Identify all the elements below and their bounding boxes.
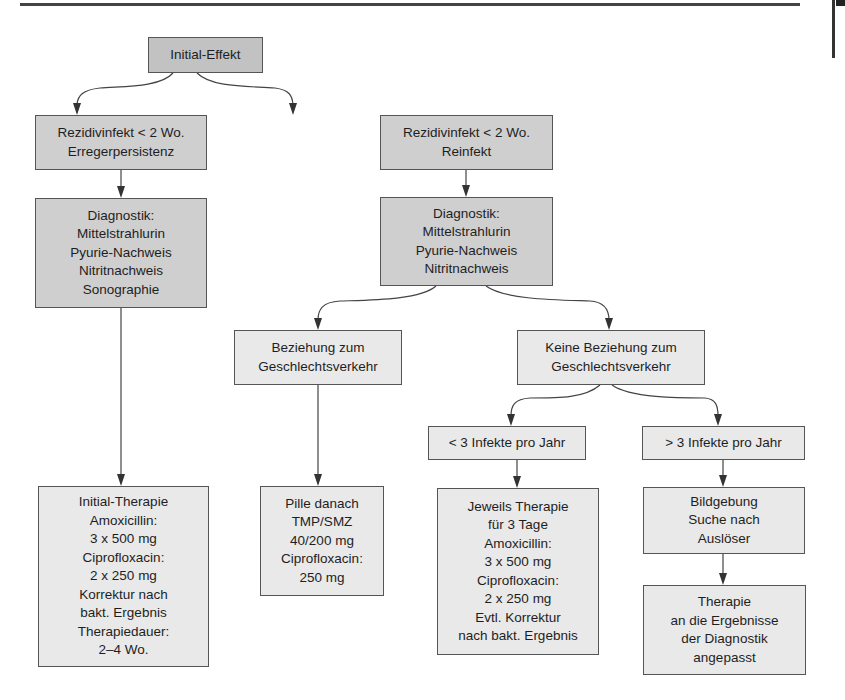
node-reinfekt: Rezidivinfekt < 2 Wo. Reinfekt xyxy=(380,115,553,170)
arrowhead-icon xyxy=(314,474,322,486)
edge-initial-to-erregerpersistenz xyxy=(77,73,173,104)
node-mehr-3-infekte: > 3 Infekte pro Jahr xyxy=(642,426,805,460)
node-beziehung: Beziehung zum Geschlechtsverkehr xyxy=(234,330,402,385)
node-jeweils-therapie: Jeweils Therapie für 3 Tage Amoxicillin:… xyxy=(437,488,599,655)
node-therapie-angepasst: Therapie an die Ergebnisse der Diagnosti… xyxy=(643,585,806,675)
edge-initial-to-reinfekt xyxy=(197,73,293,104)
arrowhead-icon xyxy=(289,103,297,115)
arrowhead-icon xyxy=(507,414,515,426)
arrowhead-icon xyxy=(73,103,81,115)
node-bildgebung: Bildgebung Suche nach Auslöser xyxy=(643,487,805,554)
arrowhead-icon xyxy=(605,318,613,330)
arrowhead-icon xyxy=(719,573,727,585)
arrowhead-icon xyxy=(462,185,470,197)
arrowhead-icon xyxy=(513,476,521,488)
node-weniger-3-infekte: < 3 Infekte pro Jahr xyxy=(428,426,586,460)
node-diagnostik-right: Diagnostik: Mittelstrahlurin Pyurie-Nach… xyxy=(380,197,553,286)
node-initial-effekt: Initial-Effekt xyxy=(148,37,263,73)
arrowhead-icon xyxy=(314,318,322,330)
node-diagnostik-left: Diagnostik: Mittelstrahlurin Pyurie-Nach… xyxy=(35,198,207,308)
node-erregerpersistenz: Rezidivinfekt < 2 Wo. Erregerpersistenz xyxy=(35,115,207,170)
node-pille-danach: Pille danach TMP/SMZ 40/200 mg Ciproflox… xyxy=(260,486,384,596)
node-initial-therapie: Initial-Therapie Amoxicillin: 3 x 500 mg… xyxy=(38,486,209,667)
arrowhead-icon xyxy=(714,414,722,426)
arrowhead-icon xyxy=(719,475,727,487)
arrowhead-icon xyxy=(117,186,125,198)
arrowhead-icon xyxy=(117,474,125,486)
node-keine-beziehung: Keine Beziehung zum Geschlechtsverkehr xyxy=(517,330,705,385)
